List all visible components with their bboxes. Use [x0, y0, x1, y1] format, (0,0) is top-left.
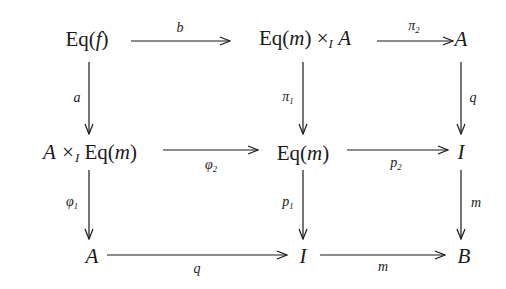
- node-a-top: A: [455, 29, 468, 50]
- label-m-bottom: m: [378, 260, 388, 274]
- label-pi1: π1: [282, 90, 293, 105]
- label-pi2: π2: [408, 19, 419, 34]
- label-m-right: m: [471, 196, 481, 210]
- node-i-mid: I: [458, 142, 465, 163]
- label-phi2: φ2: [205, 158, 217, 173]
- label-q-bottom: q: [194, 262, 201, 276]
- label-q-right: q: [470, 91, 477, 105]
- label-p1: p1: [282, 195, 293, 210]
- node-eq-m: Eq(m): [277, 143, 330, 164]
- node-b: B: [458, 246, 471, 267]
- node-eq-f: Eq(f): [65, 29, 108, 50]
- node-a-bottom: A: [86, 246, 99, 267]
- node-a-times-eq-m: A ×I Eq(m): [43, 142, 137, 165]
- node-eq-m-times-a: Eq(m) ×I A: [259, 28, 351, 51]
- node-i-bottom: I: [300, 246, 307, 267]
- label-p2: p2: [390, 156, 401, 171]
- label-a: a: [74, 91, 81, 105]
- label-b: b: [177, 21, 184, 35]
- label-phi1: φ1: [66, 195, 78, 210]
